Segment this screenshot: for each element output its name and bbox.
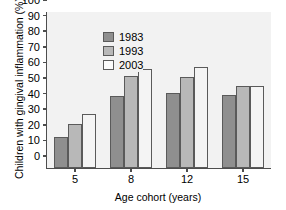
x-tick: 15 <box>223 168 263 186</box>
bar-2003-12 <box>194 67 208 168</box>
y-tick: 80 <box>28 25 47 37</box>
plot-area: 0102030405060708090100 581215 1983199320… <box>46 12 271 169</box>
y-tick-label: 90 <box>28 10 43 22</box>
y-tick: 70 <box>28 41 47 53</box>
bar-1983-15 <box>222 95 236 168</box>
x-tick-mark <box>186 168 188 172</box>
x-tick: 12 <box>167 168 207 186</box>
bar-2003-15 <box>250 86 264 168</box>
y-tick-label: 0 <box>34 150 43 162</box>
legend-label: 1983 <box>119 31 143 43</box>
y-tick-label: 40 <box>28 88 43 100</box>
y-tick: 100 <box>22 0 47 6</box>
y-tick: 60 <box>28 56 47 68</box>
y-tick-label: 20 <box>28 119 43 131</box>
y-tick-mark <box>43 0 47 1</box>
bar-1993-12 <box>180 77 194 168</box>
y-tick-label: 80 <box>28 25 43 37</box>
legend: 198319932003 <box>103 30 143 72</box>
x-tick: 8 <box>111 168 151 186</box>
x-tick-mark <box>74 168 76 172</box>
y-tick-label: 10 <box>28 134 43 146</box>
bar-group <box>215 12 271 168</box>
x-tick-mark <box>130 168 132 172</box>
legend-item-1983: 1983 <box>103 30 143 43</box>
y-tick-label: 50 <box>28 72 43 84</box>
x-tick-label: 12 <box>167 173 207 186</box>
bar-1983-5 <box>54 137 68 168</box>
y-tick-label: 100 <box>22 0 43 6</box>
y-tick: 0 <box>34 150 47 162</box>
bar-2003-5 <box>82 114 96 168</box>
y-tick-label: 60 <box>28 56 43 68</box>
bar-1983-12 <box>166 93 180 168</box>
x-tick: 5 <box>55 168 95 186</box>
y-tick: 10 <box>28 134 47 146</box>
y-tick: 20 <box>28 119 47 131</box>
bar-chart: Children with gingival inflammation (%) … <box>0 0 286 210</box>
y-tick: 50 <box>28 72 47 84</box>
legend-label: 1993 <box>119 45 143 57</box>
x-tick-label: 15 <box>223 173 263 186</box>
y-axis-title: Children with gingival inflammation (%) <box>12 3 26 179</box>
legend-swatch-1993 <box>103 46 114 56</box>
y-tick: 90 <box>28 10 47 22</box>
x-tick-label: 8 <box>111 173 151 186</box>
bar-group <box>159 12 215 168</box>
x-tick-mark <box>242 168 244 172</box>
y-tick: 40 <box>28 88 47 100</box>
legend-swatch-1983 <box>103 32 114 42</box>
y-tick: 30 <box>28 103 47 115</box>
x-tick-label: 5 <box>55 173 95 186</box>
bar-1993-8 <box>124 76 138 168</box>
legend-swatch-2003 <box>103 60 114 70</box>
bar-1983-8 <box>110 96 124 168</box>
legend-item-2003: 2003 <box>103 58 143 71</box>
bar-1993-15 <box>236 86 250 168</box>
legend-item-1993: 1993 <box>103 44 143 57</box>
bar-2003-8 <box>138 69 152 168</box>
legend-label: 2003 <box>119 59 143 71</box>
bar-1993-5 <box>68 124 82 168</box>
y-tick-label: 30 <box>28 103 43 115</box>
y-tick-label: 70 <box>28 41 43 53</box>
x-axis-title: Age cohort (years) <box>46 191 270 203</box>
bar-group <box>47 12 103 168</box>
